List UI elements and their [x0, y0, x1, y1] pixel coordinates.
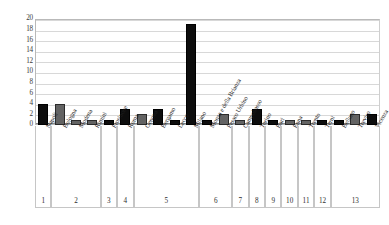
bar-slot — [101, 19, 117, 125]
y-axis-tick-label: 20 — [3, 15, 33, 22]
y-axis-tick-label: 18 — [3, 26, 33, 33]
y-axis-tick-label: 0 — [3, 121, 33, 128]
group-cell: 8 — [249, 126, 265, 208]
group-number-label: 2 — [52, 197, 99, 205]
y-axis-tick-label: 4 — [3, 100, 33, 107]
y-axis-tick-label: 14 — [3, 47, 33, 54]
group-number-label: 13 — [332, 197, 379, 205]
group-cell: 13 — [331, 126, 380, 208]
group-cell: 6 — [199, 126, 232, 208]
group-cell: 9 — [265, 126, 281, 208]
group-number-label: 12 — [315, 197, 329, 205]
group-cell: 4 — [117, 126, 133, 208]
group-number-label: 9 — [266, 197, 280, 205]
group-cell: 10 — [281, 126, 297, 208]
bar-slot — [199, 19, 215, 125]
group-cell: 5 — [134, 126, 200, 208]
group-number-label: 10 — [282, 197, 296, 205]
group-cell: 11 — [298, 126, 314, 208]
group-number-label: 8 — [250, 197, 264, 205]
y-axis: 20181614121086420 — [0, 19, 33, 125]
y-axis-tick-label: 10 — [3, 68, 33, 75]
group-number-label: 6 — [200, 197, 231, 205]
group-number-band: 12345678910111213 — [35, 126, 380, 208]
bar-slot — [331, 19, 347, 125]
bar-slot — [35, 19, 51, 125]
y-axis-tick-label: 8 — [3, 79, 33, 86]
group-number-label: 5 — [135, 197, 199, 205]
bar-slot — [183, 19, 199, 125]
bar-slot — [51, 19, 67, 125]
bar-slot — [281, 19, 297, 125]
group-number-label: 7 — [233, 197, 247, 205]
bar-slot — [298, 19, 314, 125]
y-axis-tick-label: 16 — [3, 37, 33, 44]
bar[interactable] — [186, 24, 196, 125]
bar-slot — [314, 19, 330, 125]
group-number-label: 3 — [102, 197, 116, 205]
group-cell: 12 — [314, 126, 330, 208]
group-cell: 2 — [51, 126, 100, 208]
group-cell: 3 — [101, 126, 117, 208]
y-axis-tick-label: 6 — [3, 90, 33, 97]
group-cell: 1 — [35, 126, 51, 208]
group-number-label: 11 — [299, 197, 313, 205]
group-number-label: 4 — [118, 197, 132, 205]
group-cell: 7 — [232, 126, 248, 208]
y-axis-tick-label: 12 — [3, 58, 33, 65]
bar-slot — [134, 19, 150, 125]
bar-slot — [265, 19, 281, 125]
group-number-label: 1 — [36, 197, 50, 205]
y-axis-tick-label: 2 — [3, 111, 33, 118]
